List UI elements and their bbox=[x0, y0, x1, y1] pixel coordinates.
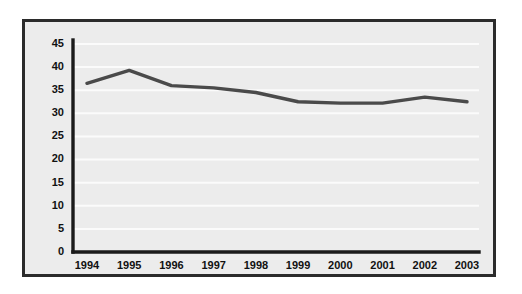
y-tick-label: 20 bbox=[52, 152, 64, 164]
x-tick-label: 1997 bbox=[201, 259, 225, 271]
y-tick-label: 45 bbox=[52, 37, 64, 49]
x-tick-label: 1994 bbox=[75, 259, 100, 271]
line-chart-svg: 051015202530354045 199419951996199719981… bbox=[25, 22, 493, 274]
x-tick-label: 2001 bbox=[370, 259, 394, 271]
data-series-group bbox=[87, 70, 467, 103]
y-tick-label: 40 bbox=[52, 60, 64, 72]
plot-area: 051015202530354045 199419951996199719981… bbox=[25, 22, 493, 274]
y-tick-label: 0 bbox=[58, 245, 64, 257]
x-tick-label: 2003 bbox=[455, 259, 479, 271]
chart-frame: 051015202530354045 199419951996199719981… bbox=[22, 19, 496, 277]
series-line bbox=[87, 70, 467, 103]
x-tick-label: 1998 bbox=[244, 259, 268, 271]
x-axis-tick-labels: 1994199519961997199819992000200120022003 bbox=[75, 259, 479, 271]
y-tick-label: 5 bbox=[58, 222, 64, 234]
y-tick-label: 15 bbox=[52, 176, 64, 188]
y-tick-label: 35 bbox=[52, 83, 64, 95]
y-tick-label: 10 bbox=[52, 199, 64, 211]
x-tick-label: 1999 bbox=[286, 259, 310, 271]
x-tick-label: 2000 bbox=[328, 259, 352, 271]
x-tick-label: 1996 bbox=[159, 259, 183, 271]
y-axis-tick-labels: 051015202530354045 bbox=[52, 37, 64, 257]
chart-figure: 051015202530354045 199419951996199719981… bbox=[0, 0, 522, 294]
x-tick-label: 1995 bbox=[117, 259, 141, 271]
x-tick-label: 2002 bbox=[413, 259, 437, 271]
y-tick-label: 30 bbox=[52, 106, 64, 118]
y-tick-label: 25 bbox=[52, 129, 64, 141]
